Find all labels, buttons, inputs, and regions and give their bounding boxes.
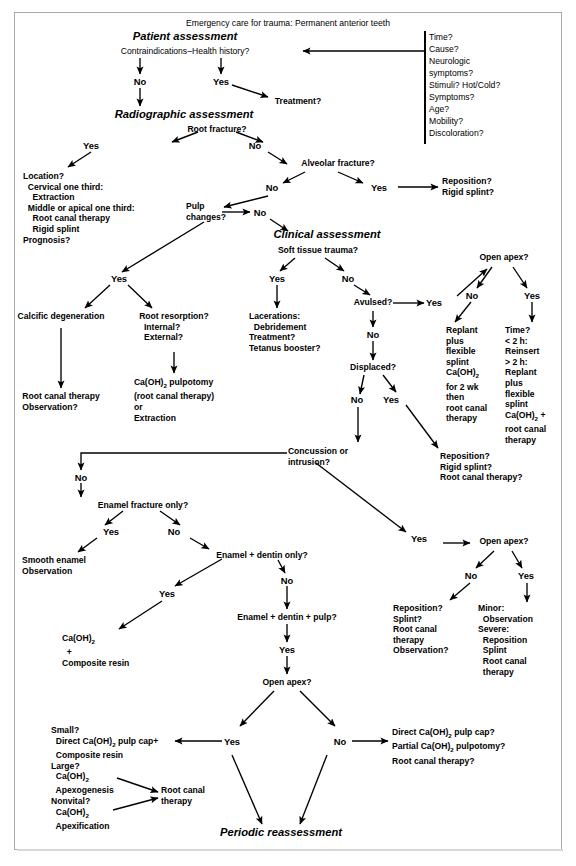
- branch-label-no-contraindications: No: [134, 76, 147, 87]
- branch-label-no-avulsed: No: [367, 329, 380, 340]
- branch-label-no-enamel-fracture: No: [168, 526, 181, 537]
- outcome-concussion-closed-apex: Reposition? Splint? Root canal therapy O…: [393, 603, 448, 656]
- branch-label-yes-alveolar: Yes: [371, 182, 387, 193]
- branch-label-yes-root-fracture: Yes: [83, 140, 99, 151]
- branch-label-yes-enamel-fracture: Yes: [103, 526, 119, 537]
- branch-label-yes-open-apex-avulsed: Yes: [524, 290, 540, 301]
- outcome-open-apex-no: Direct Ca(OH)2 pulp cap? Partial Ca(OH)2…: [392, 727, 505, 766]
- outcome-root-canal-therapy: Root canal therapy: [161, 785, 205, 806]
- history-item-discoloration: Discoloration?: [429, 128, 483, 139]
- history-item-mobility: Mobility?: [429, 116, 463, 127]
- decision-root-fracture: Root fracture?: [187, 124, 246, 135]
- decision-open-apex-avulsed: Open apex?: [479, 252, 528, 263]
- history-item-neurologic-symptoms: symptoms?: [429, 68, 473, 79]
- branch-label-no-pulp-changes: No: [254, 207, 267, 218]
- history-item-stimuli: Stimuli? Hot/Cold?: [429, 80, 500, 91]
- decision-soft-tissue-trauma: Soft tissue trauma?: [278, 245, 358, 256]
- history-item-cause: Cause?: [429, 44, 459, 55]
- decision-contraindications: Contraindications–Health history?: [121, 46, 250, 57]
- section-header-radiographic-assessment: Radiographic assessment: [115, 108, 254, 121]
- branch-label-yes-avulsed: Yes: [426, 297, 442, 308]
- outcome-treatment: Treatment?: [275, 96, 321, 107]
- section-header-clinical-assessment: Clinical assessment: [274, 228, 381, 241]
- outcome-calcific-degeneration: Calcific degeneration: [18, 311, 105, 322]
- decision-displaced: Displaced?: [350, 362, 396, 373]
- outcome-replant-closed-apex: Replant plus flexible splint Ca(OH)2 for…: [446, 325, 487, 424]
- branch-label-no-displaced: No: [351, 394, 364, 405]
- diagram-title: Emergency care for trauma: Permanent ant…: [186, 18, 390, 29]
- outcome-lacerations: Lacerations: Debridement Treatment? Teta…: [249, 311, 320, 353]
- terminal-periodic-reassessment: Periodic reassessment: [220, 826, 342, 839]
- branch-label-yes-concussion: Yes: [411, 533, 427, 544]
- outcome-root-fracture-yes: Location? Cervical one third: Extraction…: [23, 171, 135, 245]
- branch-label-no-open-apex-concussion: No: [465, 570, 478, 581]
- branch-label-yes-open-apex-concussion: Yes: [518, 570, 534, 581]
- branch-label-yes-soft-tissue: Yes: [269, 273, 285, 284]
- decision-enamel-fracture: Enamel fracture only?: [98, 500, 188, 511]
- decision-alveolar-fracture: Alveolar fracture?: [301, 158, 375, 169]
- branch-label-yes-enamel-dentin-pulp: Yes: [279, 644, 295, 655]
- history-item-time: Time?: [429, 32, 453, 43]
- outcome-displaced-yes: Reposition? Rigid splint? Root canal the…: [440, 451, 523, 483]
- branch-label-no-open-apex-pulp: No: [334, 736, 347, 747]
- outcome-root-resorption: Root resorption? Internal? External?: [139, 311, 209, 343]
- branch-label-no-root-fracture: No: [249, 140, 262, 151]
- outcome-calcific-treatment: Root canal therapy Observation?: [22, 391, 99, 412]
- branch-label-yes-pulp-changes: Yes: [111, 273, 127, 284]
- decision-avulsed: Avulsed?: [354, 297, 392, 308]
- branch-label-no-open-apex-avulsed: No: [466, 290, 479, 301]
- outcome-reposition-rigid-splint: Reposition? Rigid splint?: [442, 176, 494, 197]
- branch-label-no-alveolar: No: [266, 182, 279, 193]
- branch-label-no-concussion: No: [75, 472, 88, 483]
- decision-enamel-dentin: Enamel + dentin only?: [216, 550, 307, 561]
- decision-open-apex-pulp: Open apex?: [262, 677, 311, 688]
- outcome-replant-open-apex: Time? < 2 h: Reinsert > 2 h: Replant plu…: [505, 325, 546, 445]
- outcome-smooth-enamel: Smooth enamel Observation: [22, 555, 86, 576]
- branch-label-no-soft-tissue: No: [342, 273, 355, 284]
- history-item-age: Age?: [429, 104, 449, 115]
- decision-pulp-changes: Pulp changes?: [186, 201, 226, 222]
- branch-label-no-enamel-dentin: No: [281, 575, 294, 586]
- outcome-caoh-pulpotomy: Ca(OH)2 pulpotomy (root canal therapy) o…: [134, 377, 214, 423]
- outcome-open-apex-yes: Small? Direct Ca(OH)2 pulp cap+ Composit…: [51, 725, 158, 832]
- branch-label-yes-displaced: Yes: [383, 394, 399, 405]
- history-item-neurologic: Neurologic: [429, 56, 470, 67]
- branch-label-yes-contraindications: Yes: [213, 76, 229, 87]
- outcome-caoh-composite: Ca(OH)2 + Composite resin: [62, 633, 129, 669]
- history-panel-rule: [424, 31, 426, 144]
- flowchart-page: Emergency care for trauma: Permanent ant…: [0, 0, 576, 866]
- branch-label-yes-enamel-dentin: Yes: [159, 588, 175, 599]
- decision-concussion-intrusion: Concussion or intrusion?: [288, 446, 348, 467]
- outcome-concussion-open-apex: Minor: Observation Severe: Reposition Sp…: [478, 603, 533, 677]
- section-header-patient-assessment: Patient assessment: [133, 30, 237, 43]
- branch-label-yes-open-apex-pulp: Yes: [224, 736, 240, 747]
- history-item-symptoms: Symptoms?: [429, 92, 474, 103]
- decision-enamel-dentin-pulp: Enamel + dentin + pulp?: [237, 612, 336, 623]
- decision-open-apex-concussion: Open apex?: [479, 536, 528, 547]
